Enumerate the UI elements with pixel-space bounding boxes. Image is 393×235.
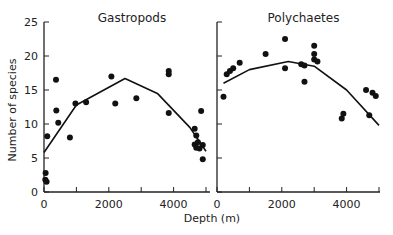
y-tick-label: 15: [24, 84, 38, 97]
data-point: [311, 43, 317, 49]
data-point: [53, 77, 59, 83]
data-point: [55, 120, 61, 126]
chart: 0510152025020004000Gastropods020004000Po…: [0, 0, 393, 235]
data-point: [108, 73, 114, 79]
data-point: [301, 63, 307, 69]
panel-title: Polychaetes: [268, 11, 340, 25]
x-tick-label: 0: [41, 198, 48, 211]
data-point: [311, 51, 317, 57]
data-point: [44, 179, 50, 185]
y-tick-label: 20: [24, 50, 38, 63]
x-tick-label: 2000: [95, 198, 123, 211]
data-point: [112, 101, 118, 107]
y-tick-label: 25: [24, 16, 38, 29]
y-tick-label: 5: [31, 152, 38, 165]
data-point: [366, 112, 372, 118]
data-point: [43, 170, 49, 176]
data-point: [193, 133, 199, 139]
x-tick-label: 2000: [268, 198, 296, 211]
data-point: [72, 101, 78, 107]
data-point: [237, 60, 243, 66]
data-point: [67, 135, 73, 141]
y-tick-label: 0: [31, 186, 38, 199]
data-point: [363, 87, 369, 93]
data-point: [301, 79, 307, 85]
data-point: [83, 99, 89, 105]
x-axis-label: Depth (m): [184, 212, 240, 225]
data-point: [282, 65, 288, 71]
data-point: [198, 108, 204, 114]
data-point: [200, 142, 206, 148]
data-point: [282, 36, 288, 42]
fit-curve: [223, 61, 379, 125]
data-point: [263, 51, 269, 57]
data-point: [133, 95, 139, 101]
data-point: [192, 126, 198, 132]
data-point: [220, 94, 226, 100]
y-axis-label: Number of species: [6, 58, 19, 161]
data-point: [44, 133, 50, 139]
x-tick-label: 4000: [160, 198, 188, 211]
data-point: [314, 58, 320, 64]
data-point: [200, 156, 206, 162]
panel-title: Gastropods: [98, 11, 166, 25]
data-point: [53, 107, 59, 113]
data-point: [230, 65, 236, 71]
data-point: [340, 111, 346, 117]
data-point: [166, 110, 172, 116]
x-tick-label: 4000: [333, 198, 361, 211]
fit-curve: [44, 78, 206, 152]
data-point: [166, 71, 172, 77]
x-tick-label: 0: [214, 198, 221, 211]
y-tick-label: 10: [24, 118, 38, 131]
data-point: [373, 93, 379, 99]
